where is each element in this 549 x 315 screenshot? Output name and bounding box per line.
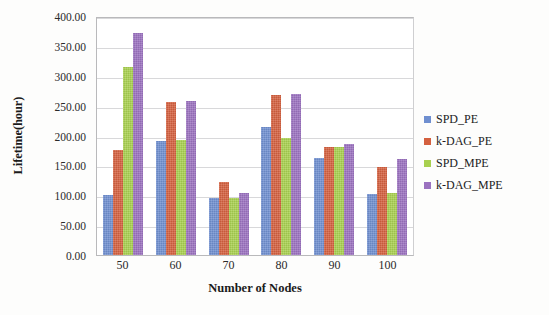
y-axis-tick-label: 50.00 [60, 220, 86, 232]
x-axis-tick-label: 80 [255, 258, 308, 273]
legend-swatch-icon [424, 182, 431, 189]
x-axis-tick-label: 60 [149, 258, 202, 273]
bar [229, 198, 239, 255]
bar [271, 95, 281, 255]
y-axis-tick-label: 150.00 [54, 160, 86, 172]
bar [281, 138, 291, 255]
bar [377, 167, 387, 255]
bar [176, 140, 186, 255]
bar [239, 193, 249, 255]
x-axis-title: Number of Nodes [96, 281, 414, 296]
bar-group [97, 18, 150, 255]
y-axis-title: Lifetime(hour) [12, 96, 27, 174]
bar [209, 198, 219, 255]
bar [387, 193, 397, 255]
bar [397, 159, 407, 255]
legend-label: SPD_MPE [436, 156, 489, 171]
legend-label: SPD_PE [436, 112, 478, 127]
bar [103, 195, 113, 255]
y-axis-tick-labels: 0.0050.00100.00150.00200.00250.00300.003… [28, 17, 90, 256]
x-axis-tick-label: 90 [308, 258, 361, 273]
bar [156, 141, 166, 255]
legend-swatch-icon [424, 160, 431, 167]
bar-group [255, 18, 308, 255]
bar-group [360, 18, 413, 255]
bar [186, 101, 196, 255]
x-axis-tick-label: 100 [361, 258, 414, 273]
legend-label: k-DAG_PE [436, 134, 492, 149]
bar [324, 147, 334, 255]
legend-swatch-icon [424, 138, 431, 145]
bar [261, 127, 271, 255]
bar [113, 150, 123, 255]
x-axis-tick-label: 70 [202, 258, 255, 273]
x-axis-tick-labels: 5060708090100 [96, 258, 414, 273]
y-axis-tick-label: 200.00 [54, 131, 86, 143]
legend-swatch-icon [424, 116, 431, 123]
legend-item[interactable]: k-DAG_PE [424, 134, 546, 149]
bar [291, 94, 301, 255]
bar [133, 33, 143, 255]
bar-chart-figure: Lifetime(hour) 0.0050.00100.00150.00200.… [0, 0, 549, 315]
bar-groups [97, 18, 413, 255]
legend: SPD_PEk-DAG_PESPD_MPEk-DAG_MPE [424, 112, 546, 193]
bar-group [150, 18, 203, 255]
bar-group [308, 18, 361, 255]
y-axis-tick-label: 100.00 [54, 190, 86, 202]
bar [219, 182, 229, 255]
bar [123, 67, 133, 255]
legend-item[interactable]: SPD_PE [424, 112, 546, 127]
y-axis-tick-label: 250.00 [54, 101, 86, 113]
y-axis-tick-label: 0.00 [66, 250, 86, 262]
legend-item[interactable]: SPD_MPE [424, 156, 546, 171]
bar [344, 144, 354, 255]
bar [314, 158, 324, 255]
bar [334, 147, 344, 255]
y-axis-tick-label: 300.00 [54, 71, 86, 83]
legend-label: k-DAG_MPE [436, 178, 503, 193]
bar [367, 194, 377, 255]
x-axis-tick-label: 50 [96, 258, 149, 273]
bar-group [202, 18, 255, 255]
plot-area [96, 17, 414, 256]
legend-item[interactable]: k-DAG_MPE [424, 178, 546, 193]
y-axis-tick-label: 350.00 [54, 41, 86, 53]
bar [166, 102, 176, 255]
y-axis-tick-label: 400.00 [54, 11, 86, 23]
